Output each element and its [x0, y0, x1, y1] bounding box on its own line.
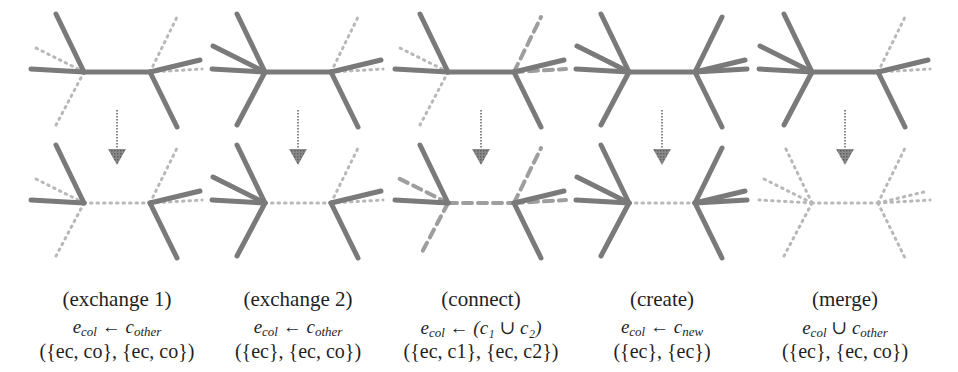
- before-left-leg-lowL: [759, 69, 812, 72]
- before-left-leg-down: [237, 72, 265, 125]
- after-left-leg-down: [601, 203, 629, 256]
- down-arrow-icon: [653, 149, 671, 165]
- coedge-sets: ({ec, co}, {ec, co}): [22, 340, 212, 363]
- coedge-sets: ({ec, c1}, {ec, c2}): [386, 340, 576, 363]
- after-left-leg-up: [56, 145, 84, 203]
- after-right-leg-up: [695, 148, 722, 203]
- coedge-sets: ({ec}, {ec}): [567, 340, 757, 363]
- before-left-leg-down: [784, 72, 812, 125]
- coedge-sets: ({ec}, {ec, co}): [203, 340, 393, 363]
- before-right-leg-down: [514, 72, 541, 127]
- assignment-rule: ecol ← cother: [203, 316, 393, 340]
- before-left-leg-down: [420, 72, 448, 125]
- operation-title: (connect): [386, 287, 576, 312]
- assignment-rule: ecol ← cother: [22, 316, 212, 340]
- after-right-leg-up: [150, 148, 177, 203]
- after-right-leg-up: [878, 148, 905, 203]
- before-left-leg-down: [56, 72, 84, 125]
- after-right-leg-lowR: [695, 200, 747, 203]
- before-right-leg-up: [695, 17, 722, 72]
- operation-title: (exchange 2): [203, 287, 393, 312]
- coedge-sets: ({ec}, {ec, co}): [750, 340, 940, 363]
- before-right-leg-up: [331, 17, 358, 72]
- down-arrow-icon: [289, 149, 307, 165]
- operation-title: (merge): [750, 287, 940, 312]
- before-right-leg-down: [695, 72, 722, 127]
- after-right-leg-down: [514, 203, 541, 258]
- after-left-leg-lowL: [212, 200, 265, 203]
- panel-exchange2: [212, 14, 383, 258]
- after-right-leg-down: [695, 203, 722, 258]
- before-right-leg-down: [878, 72, 905, 127]
- before-left-leg-down: [601, 72, 629, 125]
- assignment-rule: ecol ∪ cother: [750, 316, 940, 341]
- operation-title: (create): [567, 287, 757, 312]
- after-left-leg-lowL: [31, 200, 84, 203]
- panel-merge: [759, 14, 930, 258]
- assignment-rule: ecol ← (c₁ ∪ c₂): [386, 316, 576, 341]
- before-right-leg-up: [150, 17, 177, 72]
- after-left-leg-down: [56, 203, 84, 256]
- before-left-leg-up: [56, 14, 84, 72]
- before-right-leg-down: [150, 72, 177, 127]
- down-arrow-icon: [108, 149, 126, 165]
- before-right-leg-down: [331, 72, 358, 127]
- assignment-rule: ecol ← cnew: [567, 316, 757, 340]
- before-right-leg-lowR: [695, 69, 747, 72]
- after-left-leg-down: [784, 203, 812, 256]
- operation-title: (exchange 1): [22, 287, 212, 312]
- before-right-leg-up: [878, 17, 905, 72]
- before-left-leg-lowL: [576, 69, 629, 72]
- before-left-leg-lowL: [212, 69, 265, 72]
- after-right-leg-up: [514, 148, 541, 203]
- after-left-leg-lowL: [576, 200, 629, 203]
- after-right-leg-up: [331, 148, 358, 203]
- after-left-leg-lowL: [395, 200, 448, 203]
- down-arrow-icon: [472, 149, 490, 165]
- panel-connect: [395, 14, 566, 258]
- after-right-leg-down: [150, 203, 177, 258]
- before-left-leg-lowL: [31, 69, 84, 72]
- before-left-leg-lowL: [395, 69, 448, 72]
- panel-exchange1: [31, 14, 202, 258]
- after-left-leg-down: [420, 203, 448, 256]
- down-arrow-icon: [836, 149, 854, 165]
- before-left-leg-up: [420, 14, 448, 72]
- before-right-leg-up: [514, 17, 541, 72]
- after-right-leg-down: [878, 203, 905, 258]
- after-left-leg-down: [237, 203, 265, 256]
- after-right-leg-down: [331, 203, 358, 258]
- after-left-leg-up: [784, 145, 812, 203]
- panel-create: [576, 14, 747, 258]
